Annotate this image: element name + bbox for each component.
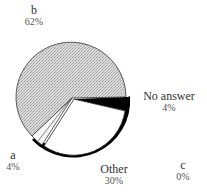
label-a-name: a	[4, 150, 22, 161]
label-a-pct: 4%	[4, 161, 22, 172]
label-b: b 62%	[22, 5, 46, 27]
label-other: Other 30%	[96, 164, 132, 186]
label-c-name: c	[172, 160, 194, 171]
label-no-answer-pct: 4%	[133, 102, 205, 113]
label-b-pct: 62%	[22, 16, 46, 27]
label-c: c 0%	[172, 160, 194, 182]
label-other-name: Other	[96, 164, 132, 175]
label-b-name: b	[22, 5, 46, 16]
label-no-answer: No answer 4%	[133, 91, 205, 113]
label-c-pct: 0%	[172, 171, 194, 182]
label-a: a 4%	[4, 150, 22, 172]
label-other-pct: 30%	[96, 175, 132, 186]
label-no-answer-name: No answer	[133, 91, 205, 102]
